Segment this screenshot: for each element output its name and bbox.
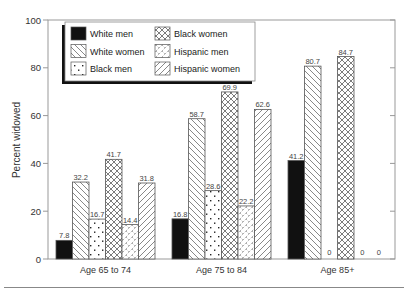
bar-value-label: 69.9 — [222, 83, 237, 92]
legend-swatch — [71, 45, 86, 58]
bar-value-label: 32.2 — [73, 173, 88, 182]
y-tick-label: 40 — [30, 158, 41, 169]
legend-swatch — [71, 62, 86, 75]
x-category-label: Age 85+ — [321, 265, 355, 275]
legend-swatch — [71, 27, 86, 40]
legend-label: White men — [90, 29, 133, 39]
bar — [139, 183, 156, 259]
bar — [89, 219, 106, 259]
bar — [305, 66, 322, 259]
bar — [172, 219, 189, 259]
legend-label: Hispanic men — [174, 47, 229, 57]
bar-value-label: 0 — [327, 248, 331, 257]
legend: White menWhite womenBlack menBlack women… — [62, 22, 255, 84]
legend-swatch — [155, 62, 170, 75]
bar — [288, 161, 305, 259]
bar-value-label: 14.4 — [123, 216, 138, 225]
y-tick-label: 60 — [30, 110, 41, 121]
bar-value-label: 41.7 — [106, 150, 121, 159]
bar-value-label: 0 — [360, 248, 364, 257]
bar-value-label: 62.6 — [255, 100, 270, 109]
legend-label: Black men — [90, 64, 132, 74]
bar-value-label: 31.8 — [139, 174, 154, 183]
legend-swatch — [155, 27, 170, 40]
bar — [222, 92, 239, 259]
bar-chart: Percent widowed 020406080100 7.832.216.7… — [0, 0, 413, 291]
bottom-rule — [4, 287, 404, 288]
legend-label: White women — [90, 47, 145, 57]
bar-value-label: 22.2 — [239, 197, 254, 206]
bar — [205, 191, 222, 259]
bar — [56, 240, 73, 259]
bar-value-label: 16.8 — [173, 210, 188, 219]
x-category-label: Age 65 to 74 — [80, 265, 131, 275]
bar-value-label: 41.2 — [289, 152, 304, 161]
y-axis-label: Percent widowed — [11, 102, 22, 178]
bar — [122, 225, 139, 259]
y-tick-label: 80 — [30, 62, 41, 73]
legend-swatch — [155, 45, 170, 58]
bar-value-label: 28.6 — [206, 182, 221, 191]
bar-value-label: 84.7 — [338, 48, 353, 57]
y-tick-label: 100 — [25, 15, 41, 26]
y-tick-label: 0 — [36, 254, 41, 265]
x-axis-categories: Age 65 to 74Age 75 to 84Age 85+ — [80, 265, 354, 275]
bar-value-label: 16.7 — [90, 210, 105, 219]
legend-label: Hispanic women — [174, 64, 240, 74]
bar-value-label: 80.7 — [305, 57, 320, 66]
bar-value-label: 58.7 — [189, 110, 204, 119]
bar-value-label: 0 — [377, 248, 381, 257]
bar — [189, 119, 206, 259]
y-tick-label: 20 — [30, 206, 41, 217]
bar — [255, 109, 272, 259]
bar-value-label: 7.8 — [59, 231, 69, 240]
x-category-label: Age 75 to 84 — [196, 265, 247, 275]
bar — [73, 182, 90, 259]
bar — [106, 159, 123, 259]
bar — [238, 206, 255, 259]
legend-label: Black women — [174, 29, 228, 39]
bar — [338, 57, 355, 259]
